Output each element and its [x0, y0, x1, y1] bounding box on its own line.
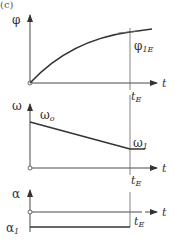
omega1-label: ω1 [133, 136, 148, 151]
alpha-plot: α α1 t tE [6, 187, 167, 236]
phi-t-label: t [162, 77, 167, 90]
omega-y-label: ω [12, 99, 22, 113]
phi-curve [30, 29, 152, 83]
alpha-y-label: α [12, 187, 20, 201]
omega-tE-label-top: tE [131, 90, 141, 104]
omega-t-label: t [162, 162, 167, 175]
omega-tE-label: tE [131, 174, 141, 188]
kinematics-diagram: (c) φ φ1E t tE ω ωo ω1 t tE α α1 t t [0, 0, 175, 248]
alpha-tE-label: tE [134, 215, 144, 229]
panel-label: (c) [0, 0, 14, 10]
phi1E-label: φ1E [134, 39, 153, 54]
alpha-origin [28, 210, 32, 214]
omega-curve [30, 122, 145, 149]
phi-y-label: φ [12, 13, 20, 27]
alpha-t-label: t [162, 206, 167, 219]
phi-plot: φ φ1E t [12, 13, 167, 90]
omega0-label: ωo [40, 108, 55, 123]
omega-origin [28, 166, 32, 170]
alpha1-label: α1 [6, 221, 19, 236]
omega-plot: tE ω ωo ω1 t tE [12, 90, 167, 188]
